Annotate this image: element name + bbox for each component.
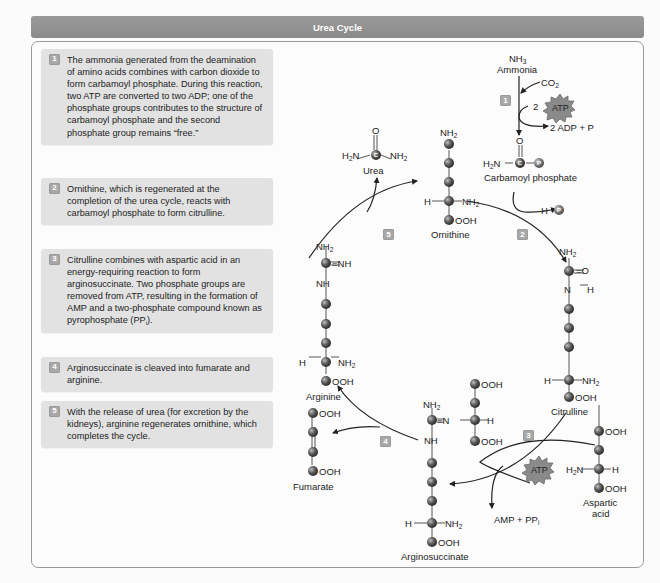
ornithine-nh2: NH2 xyxy=(462,196,479,207)
citrulline-eq-o: =O xyxy=(576,265,589,276)
co2-label: CO2 xyxy=(541,77,559,88)
aspartic-ooh-bottom: OOH xyxy=(605,483,627,494)
atp-coefficient: 2 xyxy=(533,101,538,112)
citrulline-nh2-top: NH2 xyxy=(559,246,576,257)
atp-label-1: ATP xyxy=(552,103,569,113)
carbamoyl-oxygen: O xyxy=(516,135,523,146)
arginine-ooh: OOH xyxy=(332,376,354,387)
arginine-h: H xyxy=(299,357,306,368)
urea-oxygen: O xyxy=(372,125,379,136)
arginosuccinate-nh2: NH2 xyxy=(445,518,462,529)
aspartic-label-2: acid xyxy=(592,508,609,519)
urea-label: Urea xyxy=(363,165,384,176)
atp-label-2: ATP xyxy=(531,465,548,475)
aspartic-label-1: Aspartic xyxy=(583,497,617,508)
svg-text:P: P xyxy=(537,160,541,166)
fumarate-label: Fumarate xyxy=(293,481,334,492)
arginosuccinate-eq-n: =N xyxy=(437,415,449,426)
urea-nh2: NH2 xyxy=(390,150,407,161)
svg-text:P: P xyxy=(557,207,561,213)
carbamoyl-h2n: H2N xyxy=(483,158,500,169)
arginosuccinate-label: Arginosuccinate xyxy=(401,551,469,562)
citrulline-label: Citrulline xyxy=(551,406,588,417)
arginosuccinate-h: H xyxy=(405,518,412,529)
svg-text:C: C xyxy=(518,160,523,166)
aspartic-h: H xyxy=(612,464,619,475)
diagram-step-badge-1: 1 xyxy=(500,95,511,106)
carbon-atoms xyxy=(308,139,604,547)
urea-cycle-diagram: CC PP xyxy=(0,0,660,583)
fumarate-ooh-top: OOH xyxy=(319,408,341,419)
aspartic-ooh-top: OOH xyxy=(605,426,627,437)
citrulline-ooh: OOH xyxy=(575,392,597,403)
ornithine-label: Ornithine xyxy=(431,229,470,240)
arginosuccinate-nh: NH xyxy=(424,435,438,446)
adp-products-label: 2 ADP + P xyxy=(550,122,594,133)
arginosuccinate-nh2-top: NH2 xyxy=(423,399,440,410)
urea-h2n: H2N xyxy=(342,150,359,161)
diagram-step-badge-5: 5 xyxy=(383,229,394,240)
svg-text:C: C xyxy=(374,152,379,158)
arginine-nh: NH xyxy=(316,278,330,289)
ornithine-nh2-top: NH2 xyxy=(440,127,457,138)
citrulline-n: N xyxy=(564,284,571,295)
bond-lines xyxy=(309,135,611,540)
arginosuccinate-h-side: H xyxy=(487,415,494,426)
arginine-nh2: NH2 xyxy=(338,357,355,368)
arginine-nh2-top: NH2 xyxy=(316,241,333,252)
amp-products-label: AMP + PPi xyxy=(494,514,539,525)
diagram-step-badge-4: 4 xyxy=(380,436,391,447)
citrulline-n-h: H xyxy=(587,284,594,295)
diagram-step-badge-3: 3 xyxy=(523,430,534,441)
arginine-eq-nh: =NH xyxy=(332,258,351,269)
citrulline-h: H xyxy=(544,375,551,386)
arginosuccinate-ooh-side: OOH xyxy=(481,436,503,447)
citrulline-nh2: NH2 xyxy=(582,375,599,386)
ammonia-formula: NH3 xyxy=(509,53,526,64)
arginine-label: Arginine xyxy=(306,391,341,402)
arginosuccinate-ooh-top: OOH xyxy=(481,379,503,390)
ornithine-ooh: OOH xyxy=(455,215,477,226)
ammonia-label: Ammonia xyxy=(497,64,537,75)
arginosuccinate-ooh: OOH xyxy=(438,537,460,548)
hydrogen-phosphate-h: H xyxy=(541,205,548,216)
fumarate-ooh-bottom: OOH xyxy=(319,466,341,477)
ornithine-h: H xyxy=(424,196,431,207)
diagram-step-badge-2: 2 xyxy=(517,229,528,240)
carbamoyl-phosphate-label: Carbamoyl phosphate xyxy=(484,172,577,183)
aspartic-h2n: H2N xyxy=(566,464,583,475)
